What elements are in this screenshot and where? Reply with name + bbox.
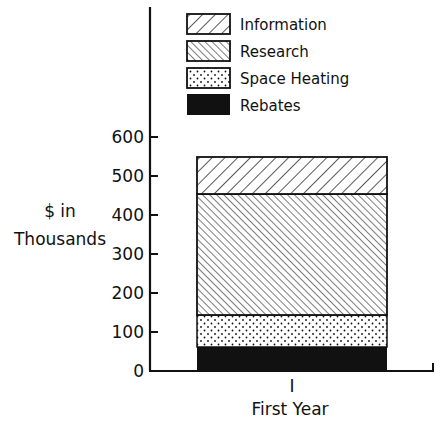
legend-item-information: Information <box>187 14 327 34</box>
legend-label: Space Heating <box>240 70 349 88</box>
bar-first-year <box>197 157 387 371</box>
legend: Information Research Space Heating Rebat… <box>187 14 349 115</box>
segment-research <box>197 194 387 315</box>
legend-item-rebates: Rebates <box>187 94 301 115</box>
y-tick-100: 100 <box>112 322 144 342</box>
y-tick-0: 0 <box>133 361 144 381</box>
segment-information <box>197 157 387 194</box>
legend-label: Information <box>240 16 327 34</box>
y-title-line2: Thousands <box>13 229 106 249</box>
legend-item-space-heating: Space Heating <box>187 68 349 88</box>
legend-label: Research <box>240 43 309 61</box>
hatch-forward-swatch-icon <box>187 14 230 34</box>
solid-swatch-icon <box>187 94 230 115</box>
x-axis-title: First Year <box>251 399 328 419</box>
y-tick-600: 600 <box>112 127 144 147</box>
y-axis-title: $ in Thousands <box>13 201 106 249</box>
y-tick-500: 500 <box>112 166 144 186</box>
hatch-back-swatch-icon <box>187 41 230 61</box>
dots-swatch-icon <box>187 68 230 88</box>
y-tick-300: 300 <box>112 244 144 264</box>
y-tick-200: 200 <box>112 283 144 303</box>
y-ticks <box>150 137 158 371</box>
segment-space-heating <box>197 315 387 347</box>
legend-item-research: Research <box>187 41 309 61</box>
stacked-bar-chart: 0 100 200 300 400 500 600 $ in Thousands… <box>0 0 444 428</box>
y-tick-400: 400 <box>112 205 144 225</box>
y-title-line1: $ in <box>44 201 76 221</box>
legend-label: Rebates <box>240 97 301 115</box>
y-axis: 0 100 200 300 400 500 600 <box>112 7 158 381</box>
x-axis: I First Year <box>149 363 434 419</box>
segment-rebates <box>197 347 387 371</box>
x-tick-label: I <box>289 376 294 396</box>
